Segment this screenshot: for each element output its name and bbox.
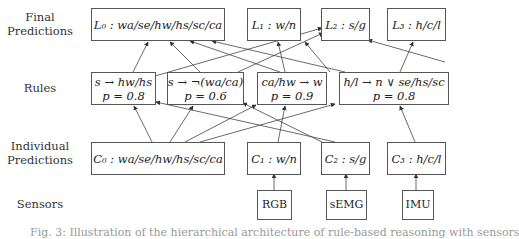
edge-c0-r3 xyxy=(200,104,335,142)
sensor-rgb-label: RGB xyxy=(262,198,287,212)
sensor-imu: IMU xyxy=(402,190,434,220)
individual-prediction-c0: C₀ : wa/se/hw/hs/sc/ca xyxy=(91,142,225,175)
individual-prediction-c1: C₁ : w/n xyxy=(247,142,301,175)
rule-r1-prob: p = 0.6 xyxy=(184,89,227,103)
rule-r2-prob: p = 0.9 xyxy=(271,89,314,103)
final-prediction-l1-label: L₁ : w/n xyxy=(252,18,297,32)
individual-prediction-c3-label: C₃ : h/c/l xyxy=(392,152,442,166)
edge-c0-r0 xyxy=(134,106,152,142)
rule-r2: ca/hw → w p = 0.9 xyxy=(257,72,327,105)
edge-r3-l3 xyxy=(400,42,413,72)
edge-r3-l2-partial xyxy=(305,42,330,72)
edge-c2-r1 xyxy=(243,103,322,142)
rule-r3: h/l → n ∨ se/hs/sc p = 0.8 xyxy=(339,72,449,105)
rule-r0-text: s → hw/hs xyxy=(95,75,152,89)
edge-c0-r1 xyxy=(170,106,193,142)
rule-r0: s → hw/hs p = 0.8 xyxy=(91,72,156,105)
figure-caption: Fig. 3: Illustration of the hierarchical… xyxy=(30,226,519,239)
rule-r1-text: s → ¬(wa/ca) xyxy=(168,75,243,89)
sensor-semg: sEMG xyxy=(326,190,367,220)
final-prediction-l3: L₃ : h/c/l xyxy=(387,8,446,41)
rule-r2-text: ca/hw → w xyxy=(261,75,322,89)
edge-c3-r3 xyxy=(400,106,415,142)
individual-prediction-c2: C₂ : s/g xyxy=(321,142,370,175)
edge-r0-l0 xyxy=(133,42,148,72)
final-prediction-l0-label: L₀ : wa/se/hw/hs/sc/ca xyxy=(94,18,222,32)
individual-prediction-c1-label: C₁ : w/n xyxy=(251,152,297,166)
rule-r1: s → ¬(wa/ca) p = 0.6 xyxy=(167,72,244,105)
individual-prediction-c2-label: C₂ : s/g xyxy=(325,152,367,166)
sensor-imu-label: IMU xyxy=(406,198,431,212)
final-prediction-l1: L₁ : w/n xyxy=(247,8,301,41)
sensor-rgb: RGB xyxy=(257,190,292,220)
rule-r0-prob: p = 0.8 xyxy=(102,89,145,103)
edge-r3-l2 xyxy=(368,40,445,62)
edge-c1-r2 xyxy=(278,106,285,142)
individual-prediction-c0-label: C₀ : wa/se/hw/hs/sc/ca xyxy=(93,152,223,166)
final-prediction-l0: L₀ : wa/se/hw/hs/sc/ca xyxy=(91,8,225,41)
individual-prediction-c3: C₃ : h/c/l xyxy=(387,142,446,175)
rule-r3-prob: p = 0.8 xyxy=(373,89,416,103)
final-prediction-l2: L₂ : s/g xyxy=(321,8,370,41)
sensor-semg-label: sEMG xyxy=(330,198,364,212)
edge-r2-l0 xyxy=(190,41,280,72)
rule-r3-text: h/l → n ∨ se/hs/sc xyxy=(343,75,444,89)
final-prediction-l3-label: L₃ : h/c/l xyxy=(392,18,441,32)
final-prediction-l2-label: L₂ : s/g xyxy=(325,18,366,32)
